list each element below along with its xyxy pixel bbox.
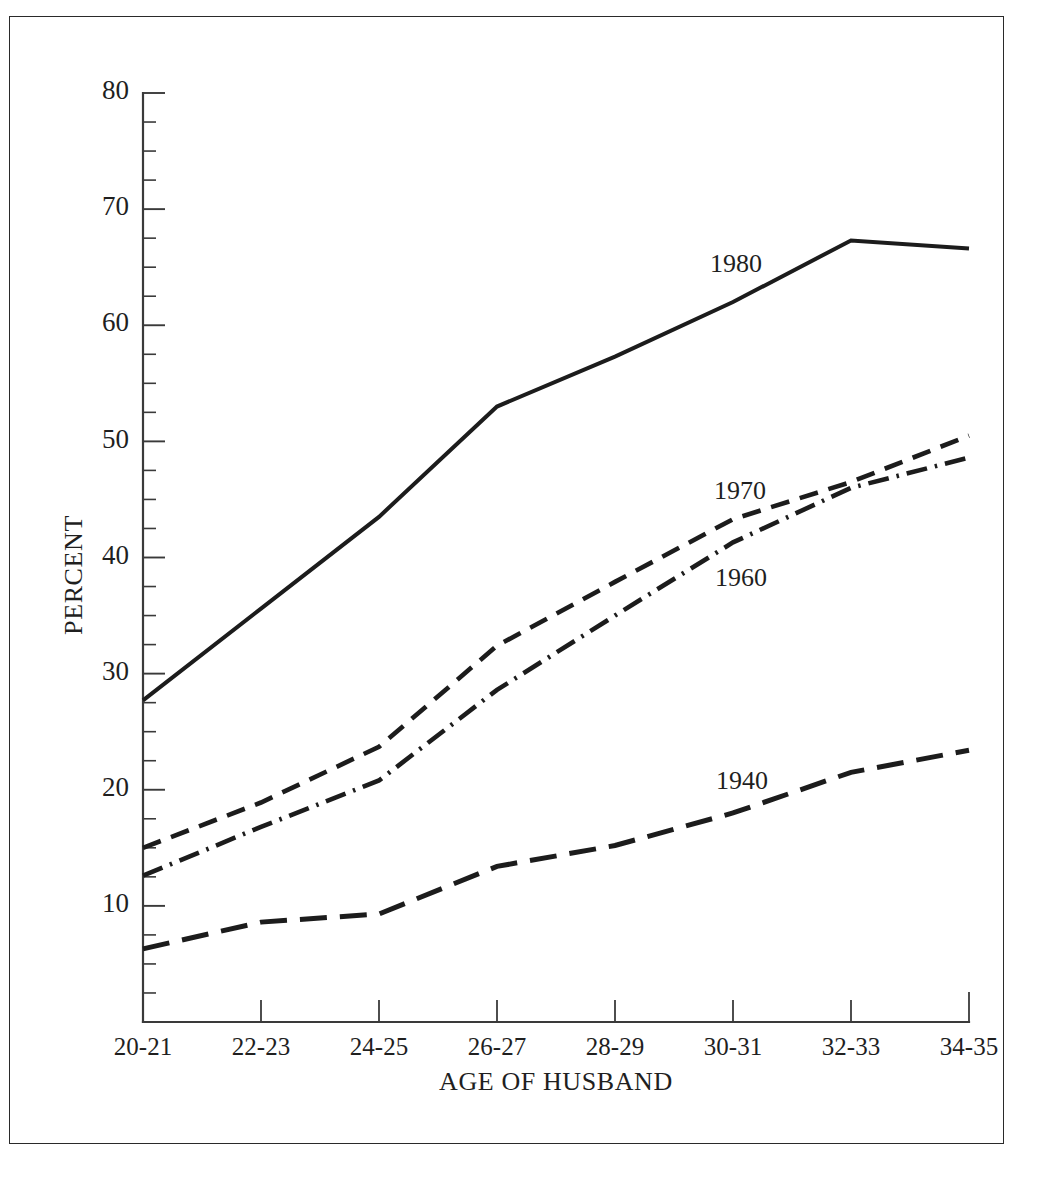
y-axis-tick-labels: 1020304050607080 bbox=[102, 75, 129, 918]
x-tick-label: 24-25 bbox=[350, 1033, 408, 1060]
x-tick-label: 30-31 bbox=[704, 1033, 762, 1060]
x-tick-label: 26-27 bbox=[468, 1033, 526, 1060]
x-tick-label: 20-21 bbox=[114, 1033, 172, 1060]
data-series-group bbox=[143, 240, 969, 948]
series-label-1940: 1940 bbox=[716, 766, 768, 795]
x-axis-title: AGE OF HUSBAND bbox=[439, 1067, 673, 1096]
series-label-1970: 1970 bbox=[714, 476, 766, 505]
x-tick-label: 34-35 bbox=[940, 1033, 998, 1060]
x-axis-tick-labels: 20-2122-2324-2526-2728-2930-3132-3334-35 bbox=[114, 1033, 998, 1060]
x-axis-group: 20-2122-2324-2526-2728-2930-3132-3334-35… bbox=[114, 992, 998, 1096]
series-line-1940 bbox=[143, 750, 969, 949]
chart-figure: 1020304050607080 PERCENT 20-2122-2324-25… bbox=[0, 0, 1056, 1178]
series-line-1960 bbox=[143, 458, 969, 876]
y-tick-label: 10 bbox=[102, 888, 129, 918]
x-tick-label: 32-33 bbox=[822, 1033, 880, 1060]
series-line-1970 bbox=[143, 436, 969, 848]
y-axis-group: 1020304050607080 PERCENT bbox=[59, 75, 165, 1022]
y-tick-label: 40 bbox=[102, 540, 129, 570]
series-label-1980: 1980 bbox=[710, 249, 762, 278]
y-axis-title: PERCENT bbox=[59, 515, 88, 635]
line-chart-plot: 1020304050607080 PERCENT 20-2122-2324-25… bbox=[0, 0, 1056, 1178]
x-tick-label: 28-29 bbox=[586, 1033, 644, 1060]
y-tick-label: 50 bbox=[102, 424, 129, 454]
y-tick-label: 70 bbox=[102, 191, 129, 221]
x-axis-ticks bbox=[143, 992, 969, 1022]
y-tick-label: 30 bbox=[102, 656, 129, 686]
y-tick-label: 80 bbox=[102, 75, 129, 105]
x-tick-label: 22-23 bbox=[232, 1033, 290, 1060]
series-line-1980 bbox=[143, 240, 969, 700]
y-axis-ticks bbox=[143, 93, 165, 993]
y-tick-label: 20 bbox=[102, 772, 129, 802]
series-inline-labels: 1980 1970 1960 1940 bbox=[710, 249, 768, 795]
series-label-1960: 1960 bbox=[715, 563, 767, 592]
y-tick-label: 60 bbox=[102, 307, 129, 337]
